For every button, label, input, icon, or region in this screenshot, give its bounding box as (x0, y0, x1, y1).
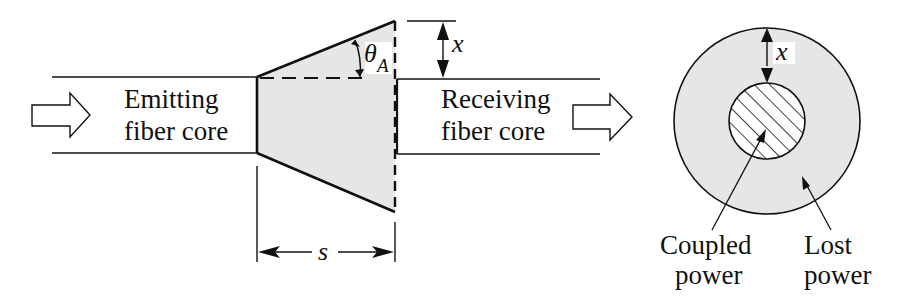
offset-symbol-right: x (775, 37, 788, 66)
coupled-label-line1: Coupled (660, 230, 752, 260)
angle-subscript: A (375, 55, 389, 76)
emitting-label-line2: fiber core (124, 116, 228, 146)
emitting-label-line1: Emitting (124, 84, 219, 114)
lost-label-line2: power (804, 260, 871, 290)
lost-label-line1: Lost (804, 230, 853, 260)
receiving-fiber: Receiving fiber core (397, 79, 632, 154)
separation-symbol: s (318, 237, 328, 266)
offset-symbol-left: x (451, 29, 464, 58)
offset-arrow-down-icon (437, 60, 449, 78)
output-arrow-icon (573, 94, 632, 140)
coupled-label-line2: power (675, 260, 742, 290)
receiving-label-line2: fiber core (441, 116, 545, 146)
diagram-canvas: Emitting fiber core θ A x Receiving fibe… (0, 0, 904, 304)
cross-section: x Coupled power Lost power (660, 28, 871, 290)
offset-arrow-up-icon (437, 22, 449, 40)
input-arrow-icon (32, 93, 90, 137)
angle-theta-symbol: θ (364, 39, 377, 68)
emitting-fiber: Emitting fiber core (32, 77, 257, 153)
receiving-label-line1: Receiving (441, 84, 550, 114)
offset-dimension-left: x (407, 21, 464, 78)
fiber-coupling-diagram: Emitting fiber core θ A x Receiving fibe… (0, 0, 904, 304)
coupled-power-region (729, 83, 805, 159)
light-cone: θ A (257, 21, 395, 212)
